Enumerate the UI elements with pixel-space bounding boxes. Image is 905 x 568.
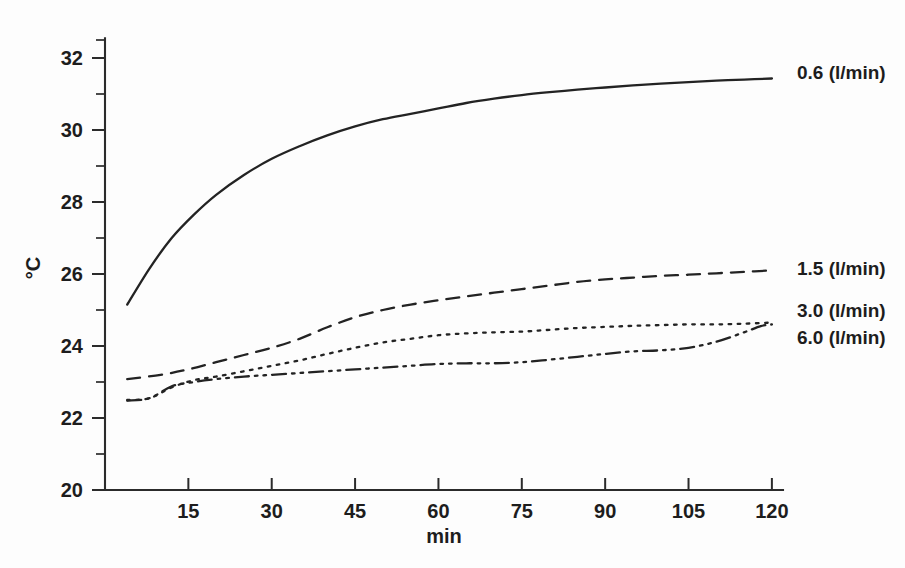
series-labels: 0.6 (l/min)1.5 (l/min)3.0 (l/min)6.0 (l/…: [797, 62, 886, 348]
x-tick-label: 75: [511, 500, 533, 522]
y-tick-label: 32: [61, 47, 83, 69]
y-axis-title: °C: [22, 257, 44, 279]
y-tick-label: 26: [61, 263, 83, 285]
x-tick-label: 120: [755, 500, 788, 522]
series-line-dashdot: [127, 324, 772, 400]
y-tick-label: 24: [61, 335, 84, 357]
line-chart: 20222426283032 153045607590105120 0.6 (l…: [0, 0, 905, 568]
series-label: 3.0 (l/min): [797, 300, 886, 321]
x-tick-label: 60: [427, 500, 449, 522]
series-label: 6.0 (l/min): [797, 327, 886, 348]
x-tick-label: 105: [672, 500, 705, 522]
y-tick-label: 20: [61, 479, 83, 501]
y-tick-label: 22: [61, 407, 83, 429]
x-tick-label: 90: [594, 500, 616, 522]
chart-figure: 20222426283032 153045607590105120 0.6 (l…: [0, 0, 905, 568]
series-line-solid: [127, 79, 772, 305]
x-tick-label: 45: [344, 500, 366, 522]
y-tick-label: 30: [61, 119, 83, 141]
series-label: 0.6 (l/min): [797, 62, 886, 83]
y-axis: 20222426283032: [61, 38, 105, 501]
x-axis: 153045607590105120: [105, 478, 789, 522]
x-tick-label: 15: [177, 500, 199, 522]
series-label: 1.5 (l/min): [797, 258, 886, 279]
data-curves: [127, 79, 772, 401]
x-tick-label: 30: [261, 500, 283, 522]
y-tick-label: 28: [61, 191, 83, 213]
x-axis-title: min: [426, 525, 462, 547]
